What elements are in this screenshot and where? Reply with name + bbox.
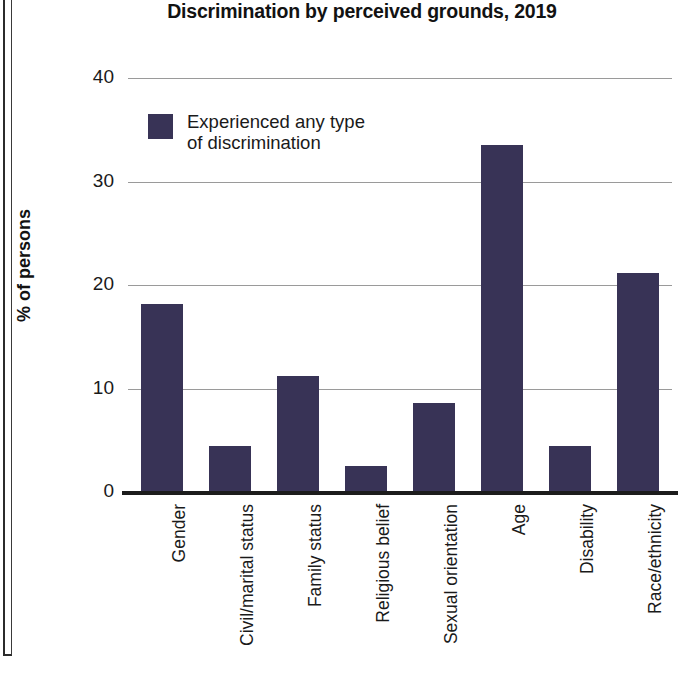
bar[interactable] — [617, 273, 659, 492]
gridline-30 — [128, 182, 672, 183]
y-axis-title: % of persons — [14, 186, 35, 346]
legend-label-line-2: of discrimination — [187, 133, 365, 154]
y-tick-label-0: 0 — [72, 480, 114, 502]
gridline-20 — [128, 285, 672, 286]
bar[interactable] — [549, 446, 591, 492]
gridline-40 — [128, 78, 672, 79]
y-tick-label-40: 40 — [72, 66, 114, 88]
x-tick-label: Civil/marital status — [237, 504, 258, 646]
bar[interactable] — [481, 145, 523, 492]
x-tick-label: Race/ethnicity — [645, 504, 666, 614]
x-tick-label: Disability — [577, 504, 598, 574]
page-border-frame — [3, 0, 12, 656]
bar[interactable] — [413, 403, 455, 492]
x-tick-label: Religious belief — [373, 504, 394, 623]
y-tick-label-20: 20 — [72, 273, 114, 295]
x-tick-label: Age — [509, 504, 530, 535]
x-tick-label: Family status — [305, 504, 326, 607]
legend-label: Experienced any type of discrimination — [187, 112, 365, 153]
y-tick-label-10: 10 — [72, 377, 114, 399]
chart-title: Discrimination by perceived grounds, 201… — [28, 0, 696, 23]
x-tick-label: Sexual orientation — [441, 504, 462, 644]
chart-legend: Experienced any type of discrimination — [148, 112, 365, 153]
bar[interactable] — [141, 304, 183, 492]
x-axis-line — [122, 491, 678, 495]
bar[interactable] — [345, 466, 387, 492]
gridline-10 — [128, 389, 672, 390]
bar[interactable] — [209, 446, 251, 492]
legend-label-line-1: Experienced any type — [187, 112, 365, 133]
legend-color-swatch — [148, 114, 173, 139]
bar[interactable] — [277, 376, 319, 492]
x-tick-label: Gender — [169, 504, 190, 562]
y-tick-label-30: 30 — [72, 170, 114, 192]
